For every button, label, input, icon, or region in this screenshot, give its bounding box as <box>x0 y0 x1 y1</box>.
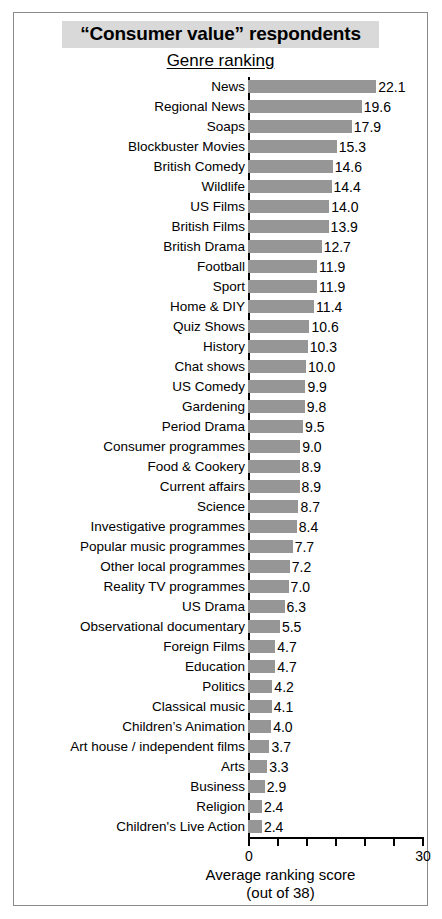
bar-row: Education4.7 <box>14 657 427 677</box>
bar <box>248 100 362 113</box>
x-axis-title: Average ranking score <box>14 866 427 884</box>
bar-track: 14.0 <box>248 197 427 217</box>
bar-track: 4.0 <box>248 717 427 737</box>
bar-row: Gardening9.8 <box>14 397 427 417</box>
bar-track: 10.3 <box>248 337 427 357</box>
bar <box>248 720 271 733</box>
bar-track: 9.9 <box>248 377 427 397</box>
bar-value-label: 22.1 <box>376 77 405 97</box>
bar <box>248 140 337 153</box>
bar-value-label: 8.7 <box>298 497 319 517</box>
bar <box>248 400 305 413</box>
bar-row: Reality TV programmes7.0 <box>14 577 427 597</box>
bar-row: Art house / independent films3.7 <box>14 737 427 757</box>
bar-row: Blockbuster Movies15.3 <box>14 137 427 157</box>
bar-row: Religion2.4 <box>14 797 427 817</box>
bar <box>248 340 308 353</box>
bar-row: British Films13.9 <box>14 217 427 237</box>
bar <box>248 760 267 773</box>
bar-category-label: News <box>14 77 248 97</box>
bar-track: 3.7 <box>248 737 427 757</box>
bar-track: 14.6 <box>248 157 427 177</box>
bar-value-label: 4.7 <box>275 657 296 677</box>
bar-value-label: 9.0 <box>300 437 321 457</box>
bar-category-label: Soaps <box>14 117 248 137</box>
bar-row: Investigative programmes8.4 <box>14 517 427 537</box>
bar-value-label: 3.7 <box>269 737 290 757</box>
bar-value-label: 6.3 <box>285 597 306 617</box>
x-axis-tick <box>335 839 337 846</box>
bar <box>248 800 262 813</box>
bar-row: Business2.9 <box>14 777 427 797</box>
bar-value-label: 14.6 <box>333 157 362 177</box>
bar-category-label: US Comedy <box>14 377 248 397</box>
bar-category-label: Observational documentary <box>14 617 248 637</box>
bar-track: 2.9 <box>248 777 427 797</box>
bar <box>248 80 376 93</box>
bar-track: 9.0 <box>248 437 427 457</box>
bar-row: Football11.9 <box>14 257 427 277</box>
bar-track: 8.7 <box>248 497 427 517</box>
bar-value-label: 4.7 <box>275 637 296 657</box>
bar-row: British Drama12.7 <box>14 237 427 257</box>
bar-value-label: 2.4 <box>262 817 283 837</box>
bar <box>248 380 305 393</box>
bar-value-label: 10.0 <box>306 357 335 377</box>
bar-row: Classical music4.1 <box>14 697 427 717</box>
x-axis-tick-label: 30 <box>415 847 431 865</box>
bar-value-label: 4.0 <box>271 717 292 737</box>
bar-category-label: Gardening <box>14 397 248 417</box>
x-axis-tick <box>277 839 279 846</box>
bar-value-label: 15.3 <box>337 137 366 157</box>
bar-value-label: 4.2 <box>272 677 293 697</box>
bar-track: 2.4 <box>248 797 427 817</box>
bar-category-label: Science <box>14 497 248 517</box>
bar-row: Observational documentary5.5 <box>14 617 427 637</box>
bar-value-label: 8.4 <box>297 517 318 537</box>
bar <box>248 440 300 453</box>
bar-value-label: 9.5 <box>303 417 324 437</box>
bar-category-label: US Drama <box>14 597 248 617</box>
chart-subtitle: Genre ranking <box>14 51 427 71</box>
bar <box>248 520 297 533</box>
x-axis-tick <box>248 839 250 846</box>
bar-track: 5.5 <box>248 617 427 637</box>
bar-category-label: Wildlife <box>14 177 248 197</box>
bar <box>248 260 317 273</box>
x-axis-tick <box>306 839 308 846</box>
bar-row: Foreign Films4.7 <box>14 637 427 657</box>
bar-value-label: 11.4 <box>314 297 342 317</box>
bar <box>248 780 265 793</box>
x-axis-tick <box>364 839 366 846</box>
bar-track: 11.4 <box>248 297 427 317</box>
chart-figure-frame: “Consumer value” respondents Genre ranki… <box>13 12 428 906</box>
bar <box>248 240 322 253</box>
bar-track: 4.7 <box>248 637 427 657</box>
bar <box>248 660 275 673</box>
bar-row: Soaps17.9 <box>14 117 427 137</box>
bar-category-label: Religion <box>14 797 248 817</box>
bar-row: US Films14.0 <box>14 197 427 217</box>
bar-category-label: Reality TV programmes <box>14 577 248 597</box>
bar-value-label: 8.9 <box>300 457 321 477</box>
bar-track: 15.3 <box>248 137 427 157</box>
bar-value-label: 2.4 <box>262 797 283 817</box>
bar <box>248 620 280 633</box>
bar-row: News22.1 <box>14 77 427 97</box>
bar-category-label: Regional News <box>14 97 248 117</box>
bar-category-label: Home & DIY <box>14 297 248 317</box>
bar <box>248 360 306 373</box>
bar-category-label: Business <box>14 777 248 797</box>
bar-track: 4.2 <box>248 677 427 697</box>
bar <box>248 200 329 213</box>
bar <box>248 460 300 473</box>
bar-row: Wildlife14.4 <box>14 177 427 197</box>
bar-row: Quiz Shows10.6 <box>14 317 427 337</box>
bar <box>248 180 332 193</box>
bar-category-label: Classical music <box>14 697 248 717</box>
bar-value-label: 8.9 <box>300 477 321 497</box>
bar <box>248 280 317 293</box>
bar-category-label: Quiz Shows <box>14 317 248 337</box>
bar-track: 11.9 <box>248 277 427 297</box>
bar-row: Sport11.9 <box>14 277 427 297</box>
